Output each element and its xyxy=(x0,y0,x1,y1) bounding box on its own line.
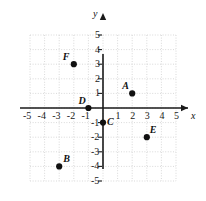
point-label-c: C xyxy=(107,117,114,127)
x-tick-label: -3 xyxy=(52,111,60,121)
y-tick-label: 4 xyxy=(95,45,100,55)
y-tick-label: 5 xyxy=(95,30,100,40)
y-tick-label: -1 xyxy=(91,118,99,128)
x-tick-label: -5 xyxy=(23,111,31,121)
data-point-c[interactable] xyxy=(100,120,106,126)
y-axis-arrowhead xyxy=(100,13,106,20)
y-tick-label: 2 xyxy=(95,74,100,84)
x-tick-label: 1 xyxy=(116,111,121,121)
point-label-b: B xyxy=(63,154,70,164)
coordinate-plane-figure: -5-4-3-2-11234554321-1-2-3-4-5xyABCDEF xyxy=(0,0,206,201)
y-tick-label: 1 xyxy=(95,88,100,98)
x-tick-label: -1 xyxy=(81,111,89,121)
x-tick-label: 2 xyxy=(130,111,135,121)
x-tick-label: 3 xyxy=(145,111,150,121)
x-tick-label: -2 xyxy=(67,111,75,121)
data-point-b[interactable] xyxy=(56,163,62,169)
axes xyxy=(20,13,188,169)
y-axis-label: y xyxy=(93,9,97,19)
y-tick-label: -3 xyxy=(91,147,99,157)
x-axis-arrowhead xyxy=(181,105,188,111)
y-tick-label: 3 xyxy=(95,59,100,69)
y-tick-label: -2 xyxy=(91,132,99,142)
x-tick-label: 4 xyxy=(159,111,164,121)
y-tick-label: -4 xyxy=(91,161,99,171)
point-label-e: E xyxy=(150,125,157,135)
x-tick-label: 5 xyxy=(174,111,179,121)
data-point-f[interactable] xyxy=(71,61,77,67)
data-point-a[interactable] xyxy=(129,90,135,96)
x-axis-label: x xyxy=(191,111,195,121)
x-tick-label: -4 xyxy=(38,111,46,121)
point-label-f: F xyxy=(63,52,70,62)
point-label-a: A xyxy=(122,81,129,91)
y-tick-label: -5 xyxy=(91,176,99,186)
point-label-d: D xyxy=(78,96,85,106)
graph-canvas xyxy=(0,0,206,201)
